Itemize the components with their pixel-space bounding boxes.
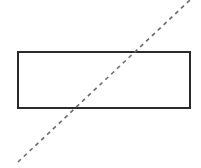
rectangle-shape — [18, 52, 190, 108]
diagram-canvas — [0, 0, 201, 168]
